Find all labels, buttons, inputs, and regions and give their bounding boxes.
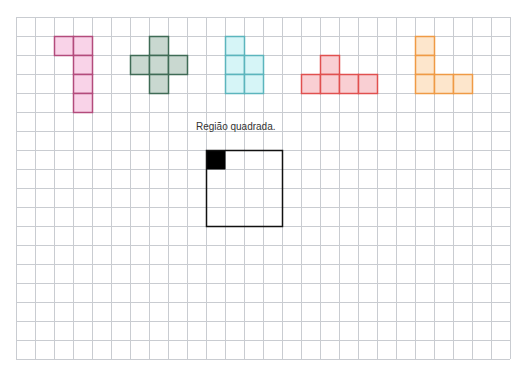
shape-cell [245, 56, 264, 75]
cyan-shape [226, 37, 264, 94]
grid-paper [16, 17, 510, 359]
red-shape [302, 56, 378, 94]
shape-cell [435, 75, 454, 94]
shape-cell [55, 37, 74, 56]
shape-cell [131, 56, 150, 75]
green-cross-shape [131, 37, 188, 94]
shape-cell [226, 75, 245, 94]
shape-cell [150, 56, 169, 75]
shape-cell [416, 75, 435, 94]
grid-lines [16, 17, 511, 360]
shape-cell [74, 75, 93, 94]
shape-cell [245, 75, 264, 94]
orange-l-shape [416, 37, 473, 94]
square-region-label: Região quadrada. [196, 121, 276, 132]
shape-cell [454, 75, 473, 94]
shape-cell [74, 37, 93, 56]
shape-cell [302, 75, 321, 94]
shape-cell [226, 37, 245, 56]
shape-cell [150, 37, 169, 56]
shape-cell [416, 37, 435, 56]
shape-cell [169, 56, 188, 75]
unit-square-filled [207, 151, 226, 170]
shape-cell [74, 94, 93, 113]
shape-cell [359, 75, 378, 94]
shape-cell [321, 75, 340, 94]
shape-cell [74, 56, 93, 75]
shape-cell [150, 75, 169, 94]
shape-cell [226, 56, 245, 75]
shape-cell [321, 56, 340, 75]
shape-cell [340, 75, 359, 94]
shape-cell [416, 56, 435, 75]
